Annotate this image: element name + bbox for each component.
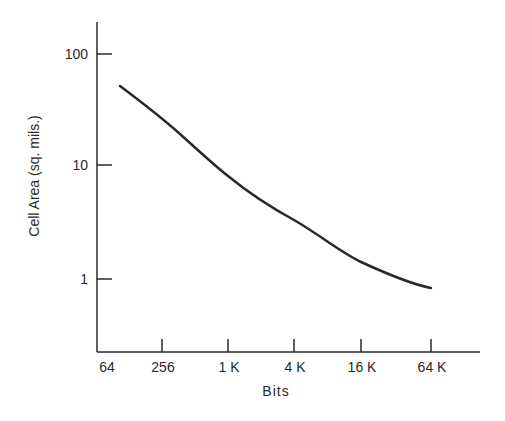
y-tick-label: 100 (65, 46, 89, 62)
chart-canvas: 100 10 1 64 256 1 K 4 K 16 K 64 K Bits C… (0, 0, 505, 421)
y-tick-label: 10 (72, 157, 88, 173)
x-axis-title: Bits (262, 383, 289, 399)
y-axis-title: Cell Area (sq. mils.) (26, 115, 42, 236)
x-tick-label: 64 (99, 359, 115, 375)
x-tick-label: 4 K (284, 359, 306, 375)
x-tick-label: 256 (151, 359, 175, 375)
x-tick-label: 16 K (348, 359, 377, 375)
y-ticks: 100 10 1 (65, 46, 112, 287)
x-tick-label: 1 K (218, 359, 240, 375)
y-tick-label: 1 (80, 271, 88, 287)
cell-area-curve (120, 86, 431, 288)
x-tick-label: 64 K (418, 359, 447, 375)
x-ticks: 64 256 1 K 4 K 16 K 64 K (99, 339, 447, 375)
